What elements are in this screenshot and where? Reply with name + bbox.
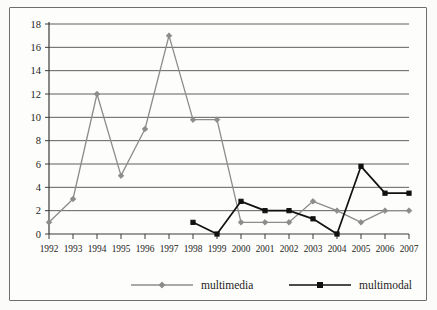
x-axis-tick-label: 2004: [328, 244, 347, 254]
y-axis-tick-label: 0: [36, 229, 41, 240]
legend-label: multimedia: [201, 279, 253, 291]
data-point-marker: [159, 282, 165, 288]
series-multimodal: [191, 164, 411, 236]
x-axis-tick-labels: 1992199319941995199619971998199920002001…: [40, 244, 419, 254]
chart-svg: 0246810121416181992199319941995199619971…: [0, 0, 437, 310]
data-point-marker: [262, 220, 268, 226]
x-axis-tick-label: 2005: [352, 244, 371, 254]
y-axis-tick-label: 8: [36, 135, 41, 146]
legend-item-multimedia[interactable]: multimedia: [131, 279, 253, 291]
x-axis-tick-label: 2006: [376, 244, 395, 254]
data-point-marker: [238, 220, 244, 226]
series-group: [46, 33, 412, 236]
y-axis-tick-label: 2: [36, 205, 41, 216]
x-axis-tick-label: 1994: [88, 244, 107, 254]
figure: 0246810121416181992199319941995199619971…: [0, 0, 437, 310]
data-point-marker: [359, 164, 363, 168]
data-point-marker: [239, 199, 243, 203]
data-point-marker: [94, 91, 100, 97]
x-axis-tick-label: 1995: [112, 244, 131, 254]
axes: [45, 22, 409, 239]
x-axis-tick-label: 1996: [136, 244, 155, 254]
series-line: [193, 166, 409, 234]
y-axis-tick-label: 16: [31, 42, 42, 53]
series-line: [49, 36, 409, 223]
x-axis-tick-label: 2001: [256, 244, 275, 254]
data-point-marker: [318, 283, 323, 288]
y-axis-tick-label: 12: [31, 89, 42, 100]
legend: multimediamultimodal: [131, 279, 412, 291]
x-axis-tick-label: 1997: [160, 244, 179, 254]
x-axis-tick-label: 2000: [232, 244, 251, 254]
y-axis-tick-label: 18: [31, 19, 42, 30]
data-point-marker: [358, 220, 364, 226]
legend-item-multimodal[interactable]: multimodal: [289, 279, 412, 291]
data-point-marker: [118, 173, 124, 179]
y-axis-tick-labels: 024681012141618: [31, 19, 42, 240]
data-point-marker: [191, 220, 195, 224]
data-point-marker: [142, 126, 148, 132]
data-point-marker: [166, 33, 172, 39]
data-point-marker: [287, 209, 291, 213]
y-axis-tick-label: 10: [31, 112, 42, 123]
y-axis-tick-label: 6: [36, 159, 41, 170]
x-axis-tick-label: 1999: [208, 244, 227, 254]
x-axis-tick-label: 1998: [184, 244, 203, 254]
data-point-marker: [263, 209, 267, 213]
x-axis-tick-label: 2007: [400, 244, 419, 254]
data-point-marker: [406, 208, 412, 214]
x-axis-tick-label: 2003: [304, 244, 323, 254]
y-axis-tick-label: 4: [36, 182, 42, 193]
data-point-marker: [311, 217, 315, 221]
y-axis-tick-label: 14: [31, 65, 42, 76]
series-multimedia: [46, 33, 412, 225]
data-point-marker: [383, 191, 387, 195]
x-axis-tick-label: 1993: [64, 244, 83, 254]
legend-label: multimodal: [359, 279, 412, 291]
data-point-marker: [407, 191, 411, 195]
data-point-marker: [382, 208, 388, 214]
x-axis-tick-label: 1992: [40, 244, 59, 254]
x-axis-tick-label: 2002: [280, 244, 299, 254]
data-point-marker: [215, 232, 219, 236]
data-point-marker: [334, 208, 340, 214]
data-point-marker: [335, 232, 339, 236]
line-chart: 0246810121416181992199319941995199619971…: [0, 0, 437, 310]
